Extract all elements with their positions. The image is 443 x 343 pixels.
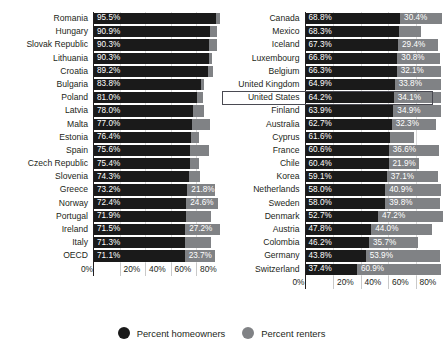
bar-segment-homeowners[interactable]: 68.3% <box>306 26 400 37</box>
table-row[interactable]: Denmark52.7%47.2% <box>222 210 443 223</box>
table-row[interactable]: Italy71.3% <box>0 236 222 249</box>
table-row[interactable]: Cyprus61.6% <box>222 131 443 144</box>
bar-segment-homeowners[interactable]: 52.7% <box>306 211 378 222</box>
table-row[interactable]: Chile60.4%21.9% <box>222 157 443 170</box>
bar-segment-renters[interactable] <box>210 26 217 37</box>
table-row[interactable]: OECD71.1%23.7% <box>0 249 222 262</box>
bar-segment-homeowners[interactable]: 64.2% <box>306 92 394 103</box>
table-row[interactable]: Slovak Republic90.3% <box>0 38 222 51</box>
bar-segment-renters[interactable]: 32.1% <box>397 66 441 77</box>
table-row[interactable]: Mexico68.3% <box>222 25 443 38</box>
bar-segment-homeowners[interactable]: 61.6% <box>306 132 391 143</box>
bar-segment-homeowners[interactable]: 76.4% <box>94 132 191 143</box>
table-row[interactable]: Bulgaria83.8% <box>0 78 222 91</box>
bar-segment-homeowners[interactable]: 90.9% <box>94 26 210 37</box>
table-row[interactable]: Poland81.0% <box>0 91 222 104</box>
bar-segment-renters[interactable] <box>192 119 210 130</box>
bar-segment-homeowners[interactable]: 43.8% <box>306 250 366 261</box>
bar-segment-homeowners[interactable]: 60.4% <box>306 158 389 169</box>
bar-segment-renters[interactable] <box>208 66 214 77</box>
table-row[interactable]: Switzerland37.4%60.9% <box>222 263 443 276</box>
table-row[interactable]: Finland63.9%34.9% <box>222 104 443 117</box>
bar-segment-renters[interactable]: 23.7% <box>185 250 215 261</box>
bar-segment-homeowners[interactable]: 90.3% <box>94 39 209 50</box>
bar-segment-homeowners[interactable]: 62.7% <box>306 119 392 130</box>
bar-segment-renters[interactable] <box>209 53 212 64</box>
bar-segment-renters[interactable]: 32.3% <box>392 119 436 130</box>
bar-segment-homeowners[interactable]: 95.5% <box>94 13 216 24</box>
table-row[interactable]: Colombia46.2%35.7% <box>222 236 443 249</box>
bar-segment-homeowners[interactable]: 73.2% <box>94 184 187 195</box>
table-row[interactable]: Austria47.8%44.0% <box>222 223 443 236</box>
bar-segment-homeowners[interactable]: 71.1% <box>94 250 185 261</box>
table-row[interactable]: Belgium66.3%32.1% <box>222 65 443 78</box>
table-row[interactable]: Canada68.8%30.4% <box>222 12 443 25</box>
table-row[interactable]: Norway72.4%24.6% <box>0 197 222 210</box>
table-row[interactable]: Greece73.2%21.8% <box>0 183 222 196</box>
bar-segment-renters[interactable]: 47.2% <box>378 211 443 222</box>
bar-segment-renters[interactable] <box>189 171 201 182</box>
table-row[interactable]: Croatia89.2% <box>0 65 222 78</box>
bar-segment-renters[interactable] <box>193 105 204 116</box>
bar-segment-renters[interactable]: 40.9% <box>385 184 441 195</box>
bar-segment-homeowners[interactable]: 75.6% <box>94 145 190 156</box>
table-row[interactable]: Malta77.0% <box>0 118 222 131</box>
table-row[interactable]: Czech Republic75.4% <box>0 157 222 170</box>
bar-segment-renters[interactable]: 60.9% <box>357 264 441 275</box>
table-row[interactable]: Sweden58.0%39.8% <box>222 197 443 210</box>
bar-segment-renters[interactable]: 21.8% <box>187 184 215 195</box>
bar-segment-renters[interactable] <box>399 26 420 37</box>
table-row[interactable]: Iceland67.3%29.4% <box>222 38 443 51</box>
bar-segment-renters[interactable] <box>185 237 211 248</box>
bar-segment-homeowners[interactable]: 89.2% <box>94 66 208 77</box>
bar-segment-homeowners[interactable]: 77.0% <box>94 119 192 130</box>
bar-segment-renters[interactable]: 27.2% <box>185 224 220 235</box>
table-row[interactable]: Luxembourg66.8%30.8% <box>222 52 443 65</box>
bar-segment-homeowners[interactable]: 74.3% <box>94 171 189 182</box>
bar-segment-renters[interactable]: 36.6% <box>389 145 439 156</box>
bar-segment-homeowners[interactable]: 60.6% <box>306 145 389 156</box>
bar-segment-homeowners[interactable]: 81.0% <box>94 92 197 103</box>
bar-segment-homeowners[interactable]: 71.3% <box>94 237 185 248</box>
table-row[interactable]: United States64.2%34.1% <box>222 91 443 104</box>
bar-segment-renters[interactable]: 53.9% <box>366 250 440 261</box>
bar-segment-homeowners[interactable]: 71.9% <box>94 211 186 222</box>
bar-segment-renters[interactable]: 24.6% <box>186 198 217 209</box>
bar-segment-homeowners[interactable]: 63.9% <box>306 105 394 116</box>
bar-segment-renters[interactable] <box>201 79 205 90</box>
bar-segment-renters[interactable]: 35.7% <box>369 237 418 248</box>
bar-segment-homeowners[interactable]: 90.3% <box>94 53 209 64</box>
bar-segment-homeowners[interactable]: 75.4% <box>94 158 190 169</box>
table-row[interactable]: Estonia76.4% <box>0 131 222 144</box>
bar-segment-homeowners[interactable]: 37.4% <box>306 264 357 275</box>
bar-segment-renters[interactable] <box>197 92 202 103</box>
bar-segment-renters[interactable]: 37.1% <box>387 171 438 182</box>
bar-segment-renters[interactable] <box>390 132 414 143</box>
bar-segment-homeowners[interactable]: 67.3% <box>306 39 399 50</box>
bar-segment-renters[interactable]: 33.8% <box>395 79 441 90</box>
bar-segment-renters[interactable]: 30.4% <box>400 13 442 24</box>
bar-segment-homeowners[interactable]: 64.9% <box>306 79 395 90</box>
bar-segment-renters[interactable]: 21.9% <box>389 158 419 169</box>
bar-segment-renters[interactable] <box>190 145 209 156</box>
table-row[interactable]: Ireland71.5%27.2% <box>0 223 222 236</box>
bar-segment-homeowners[interactable]: 47.8% <box>306 224 372 235</box>
bar-segment-renters[interactable]: 44.0% <box>371 224 432 235</box>
table-row[interactable]: Lithuania90.3% <box>0 52 222 65</box>
legend-item[interactable]: Percent renters <box>242 327 325 339</box>
bar-segment-renters[interactable] <box>216 13 220 24</box>
table-row[interactable]: Spain75.6% <box>0 144 222 157</box>
bar-segment-homeowners[interactable]: 59.1% <box>306 171 387 182</box>
bar-segment-renters[interactable]: 29.4% <box>398 39 438 50</box>
table-row[interactable]: Germany43.8%53.9% <box>222 249 443 262</box>
legend-item[interactable]: Percent homeowners <box>118 327 226 339</box>
table-row[interactable]: Hungary90.9% <box>0 25 222 38</box>
table-row[interactable]: France60.6%36.6% <box>222 144 443 157</box>
table-row[interactable]: Korea59.1%37.1% <box>222 170 443 183</box>
table-row[interactable]: Netherlands58.0%40.9% <box>222 183 443 196</box>
bar-segment-renters[interactable] <box>191 132 199 143</box>
bar-segment-renters[interactable] <box>190 158 199 169</box>
table-row[interactable]: Latvia78.0% <box>0 104 222 117</box>
table-row[interactable]: Australia62.7%32.3% <box>222 118 443 131</box>
bar-segment-homeowners[interactable]: 83.8% <box>94 79 201 90</box>
